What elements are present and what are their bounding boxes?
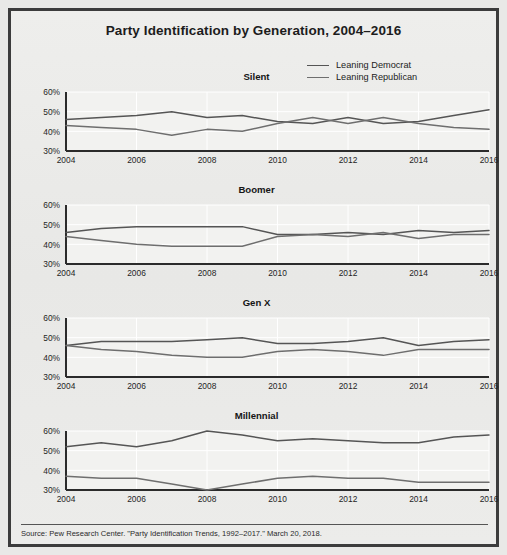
x-tick-label: 2016 (480, 381, 499, 391)
x-tick-label: 2004 (57, 494, 76, 504)
x-tick-label: 2008 (198, 155, 217, 165)
x-tick-label: 2004 (57, 381, 76, 391)
panel-title-millennial: Millennial (11, 410, 502, 421)
plot-area-millennial: 60%50%40%30%2004200620082010201220142016 (11, 424, 502, 508)
plot-area-boomer: 60%50%40%30%2004200620082010201220142016 (11, 198, 502, 282)
x-tick-label: 2012 (339, 268, 358, 278)
y-tick-label: 40% (43, 240, 60, 250)
y-tick-label: 50% (43, 333, 60, 343)
y-tick-label: 40% (43, 127, 60, 137)
x-tick-label: 2010 (268, 381, 287, 391)
x-tick-label: 2012 (339, 381, 358, 391)
y-tick-label: 60% (43, 200, 60, 210)
x-tick-label: 2014 (409, 155, 428, 165)
figure-background: Party Identification by Generation, 2004… (11, 11, 496, 544)
legend-item-democrat: Leaning Democrat (307, 59, 417, 71)
figure-title: Party Identification by Generation, 2004… (11, 23, 496, 38)
y-tick-label: 60% (43, 426, 60, 436)
line-chart-silent: 60%50%40%30%2004200620082010201220142016 (11, 85, 502, 169)
x-tick-label: 2008 (198, 494, 217, 504)
x-tick-label: 2010 (268, 494, 287, 504)
x-tick-label: 2010 (268, 268, 287, 278)
x-tick-label: 2014 (409, 494, 428, 504)
x-tick-label: 2016 (480, 268, 499, 278)
x-tick-label: 2016 (480, 494, 499, 504)
legend-label-democrat: Leaning Democrat (336, 60, 411, 70)
y-tick-label: 40% (43, 466, 60, 476)
x-tick-label: 2012 (339, 155, 358, 165)
y-tick-label: 60% (43, 313, 60, 323)
x-tick-label: 2014 (409, 268, 428, 278)
y-tick-label: 40% (43, 353, 60, 363)
plot-area-silent: 60%50%40%30%2004200620082010201220142016 (11, 85, 502, 169)
x-tick-label: 2016 (480, 155, 499, 165)
x-tick-label: 2006 (127, 268, 146, 278)
line-chart-gen-x: 60%50%40%30%2004200620082010201220142016 (11, 311, 502, 395)
x-tick-label: 2004 (57, 268, 76, 278)
line-chart-millennial: 60%50%40%30%2004200620082010201220142016 (11, 424, 502, 508)
y-tick-label: 50% (43, 220, 60, 230)
panel-title-genx: Gen X (11, 297, 502, 308)
x-tick-label: 2004 (57, 155, 76, 165)
y-tick-label: 50% (43, 107, 60, 117)
panel-title-silent: Silent (11, 71, 502, 82)
y-tick-label: 50% (43, 446, 60, 456)
legend-line-icon-democrat (307, 65, 329, 66)
source-note: Source: Pew Research Center. "Party Iden… (21, 524, 488, 538)
plot-area-genx: 60%50%40%30%2004200620082010201220142016 (11, 311, 502, 395)
panel-title-boomer: Boomer (11, 184, 502, 195)
x-tick-label: 2014 (409, 381, 428, 391)
x-tick-label: 2008 (198, 381, 217, 391)
x-tick-label: 2008 (198, 268, 217, 278)
x-tick-label: 2006 (127, 155, 146, 165)
x-tick-label: 2012 (339, 494, 358, 504)
x-tick-label: 2010 (268, 155, 287, 165)
x-tick-label: 2006 (127, 494, 146, 504)
x-tick-label: 2006 (127, 381, 146, 391)
figure-panel: Party Identification by Generation, 2004… (8, 8, 499, 547)
line-chart-boomer: 60%50%40%30%2004200620082010201220142016 (11, 198, 502, 282)
y-tick-label: 60% (43, 87, 60, 97)
